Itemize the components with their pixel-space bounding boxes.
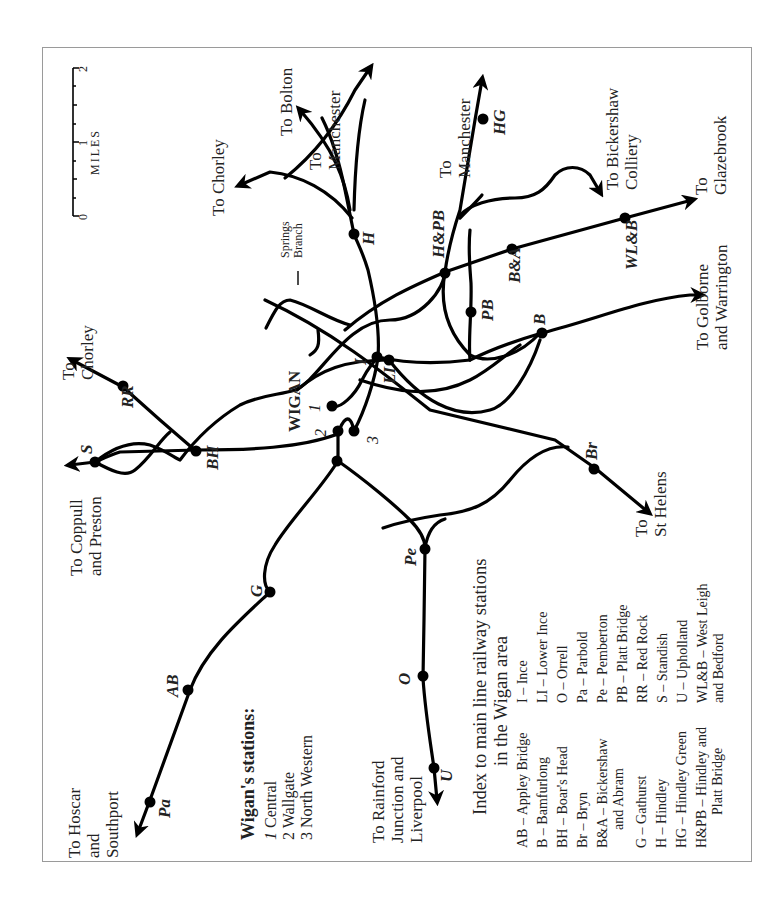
station-wigan-central[interactable]: [327, 401, 338, 412]
dest-rainford: To Rainford Junction and Liverpool: [369, 752, 426, 843]
scale-unit-label: MILES: [88, 129, 102, 175]
station-ab[interactable]: [183, 685, 194, 696]
label-wigan-1: 1: [306, 404, 323, 412]
index-entry: B – Bamfurlong: [535, 757, 550, 848]
dest-bolton: To Bolton: [277, 67, 296, 136]
index-entry: G – Gathurst: [634, 776, 649, 848]
line-springs-curve: [310, 330, 319, 355]
dest-coppull: To Coppull and Preston: [67, 495, 105, 576]
index-title-line1: Index to main line railway stations: [470, 559, 490, 815]
scale-tick-0: 0: [76, 214, 90, 220]
destination-labels: To Hoscar and Southport To Coppull and P…: [59, 67, 731, 858]
line-bickershaw-colliery: [460, 168, 600, 216]
label-wigan-town: WIGAN: [285, 370, 304, 432]
station-s[interactable]: [90, 457, 101, 468]
label-g: G: [247, 584, 266, 597]
label-br: Br: [582, 442, 601, 461]
line-triangle-side: [354, 100, 365, 210]
index-entry: LI – Lower Ince: [535, 612, 550, 703]
wigan-stations-title: Wigan's stations:: [238, 708, 258, 840]
index-entry: RR – Red Rock: [635, 615, 650, 703]
line-pemberton-loop: [383, 447, 568, 528]
scale-tick-2: 2: [76, 66, 90, 72]
line-golborne: [470, 295, 700, 360]
index-entry: BH – Boar's Head: [555, 746, 570, 848]
station-o[interactable]: [418, 671, 429, 682]
label-u: U: [437, 769, 456, 782]
station-pa[interactable]: [145, 797, 156, 808]
dest-chorley-north: To Chorley: [209, 139, 228, 216]
station-index: Index to main line railway stations in t…: [470, 559, 726, 848]
station-hg[interactable]: [478, 114, 489, 125]
label-ba: B&A: [505, 247, 524, 284]
index-entry: Br – Bryn: [575, 792, 590, 848]
label-h: H: [359, 231, 378, 246]
label-s: S: [77, 445, 96, 454]
wigan-station-item-3: 3 North Western: [298, 735, 315, 840]
label-o: O: [395, 673, 414, 685]
dest-chorley-west: To Chorley: [59, 325, 97, 380]
station-pe[interactable]: [420, 544, 431, 555]
label-hpb: H&PB: [429, 210, 448, 259]
station-li[interactable]: [384, 355, 395, 366]
label-bh: BH: [203, 445, 222, 471]
index-entry: and Bedford: [711, 633, 726, 703]
line-liverpool: [338, 461, 437, 800]
scale-bar: 0 1 2 MILES: [73, 66, 102, 220]
dest-glazebrook: To Glazebrook: [692, 115, 730, 195]
label-wigan-3: 3: [364, 436, 381, 445]
index-entry: B&A – Bickershaw: [595, 737, 610, 848]
index-entry: H – Hindley: [654, 779, 669, 848]
index-entry: Platt Bridge: [710, 748, 725, 815]
wigan-station-item-1: 1 Central: [262, 780, 279, 840]
station-hpb[interactable]: [440, 268, 451, 279]
label-b: B: [530, 314, 549, 326]
station-b[interactable]: [537, 328, 548, 339]
index-entry: AB – Appley Bridge: [515, 733, 530, 849]
railway-map: Pa AB G O U Pe S RR BH Br B PB B&A WL&B …: [0, 0, 774, 917]
label-springs-branch: Springs Branch: [278, 218, 305, 258]
wigan-stations-legend: Wigan's stations: 1 Central 2 Wallgate 3…: [238, 708, 315, 840]
junction-wallgate-south: [332, 456, 343, 467]
label-ab: AB: [163, 674, 182, 698]
index-entry: and Abram: [611, 768, 626, 830]
index-entry: Pe – Pemberton: [595, 614, 610, 703]
station-wigan-north-western[interactable]: [349, 426, 360, 437]
index-entry: S – Standish: [655, 633, 670, 703]
station-labels: Pa AB G O U Pe S RR BH Br B PB B&A WL&B …: [77, 109, 641, 819]
station-g[interactable]: [265, 587, 276, 598]
label-pa: Pa: [155, 799, 174, 819]
dest-manchester-2: To Manchester: [436, 98, 474, 178]
index-entry: H&PB – Hindley and: [694, 727, 709, 848]
station-br[interactable]: [589, 464, 600, 475]
index-entry: WL&B – West Leigh: [695, 583, 710, 703]
station-wigan-wallgate[interactable]: [333, 426, 344, 437]
dest-bickershaw: To Bickershaw Colliery: [603, 84, 641, 190]
index-entry: U – Upholland: [675, 620, 690, 703]
index-entry: O – Orrell: [555, 645, 570, 703]
line-chorley-north: [240, 172, 352, 218]
label-wigan-2: 2: [312, 429, 329, 437]
line-pemberton-curve: [425, 519, 445, 548]
label-wlb: WL&B: [622, 220, 641, 270]
label-pb: PB: [478, 299, 497, 322]
label-li: LI: [380, 366, 399, 385]
dest-golborne: To Golborne and Warrington: [693, 244, 731, 350]
line-platt-bridge: [469, 230, 471, 360]
station-bh[interactable]: [191, 446, 202, 457]
station-pb[interactable]: [466, 307, 477, 318]
index-entry: HG – Hindley Green: [674, 731, 689, 848]
label-pe: Pe: [401, 548, 420, 567]
station-i[interactable]: [372, 352, 383, 363]
station-h[interactable]: [349, 229, 360, 240]
dest-manchester-1: To Manchester: [306, 90, 344, 170]
wigan-station-item-2: 2 Wallgate: [280, 772, 298, 840]
index-entry: I – Ince: [515, 660, 530, 703]
dest-hoscar: To Hoscar and Southport: [65, 784, 122, 858]
index-entry: PB – Platt Bridge: [615, 605, 630, 703]
index-title-line2: in the Wigan area: [491, 636, 511, 766]
label-hg: HG: [490, 109, 509, 136]
label-rr: RR: [118, 385, 137, 409]
index-entry: Pa – Parbold: [575, 631, 590, 703]
